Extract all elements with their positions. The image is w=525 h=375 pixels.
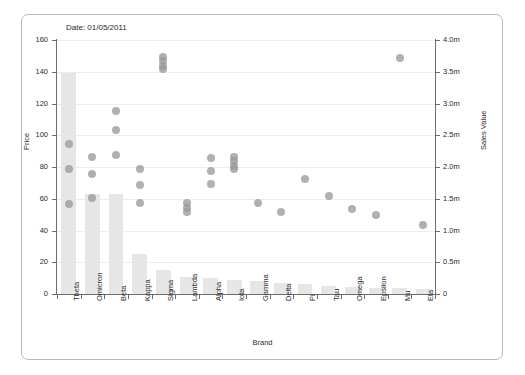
plot-area bbox=[57, 40, 435, 294]
x-tick bbox=[435, 295, 436, 299]
x-tick-label: Omicron bbox=[95, 273, 104, 301]
y-tick-left bbox=[52, 167, 56, 168]
y-tick-label-left: 160 bbox=[4, 36, 48, 44]
scatter-point bbox=[136, 199, 144, 207]
y-tick-right bbox=[436, 231, 440, 232]
scatter-point bbox=[65, 200, 73, 208]
y-axis-left-title: Price bbox=[22, 133, 31, 150]
scatter-point bbox=[65, 165, 73, 173]
x-tick-label: Gamma bbox=[261, 274, 270, 301]
y-tick-left bbox=[52, 104, 56, 105]
x-tick-label: Pi bbox=[308, 294, 317, 301]
y-tick-left bbox=[52, 199, 56, 200]
scatter-point bbox=[396, 54, 404, 62]
bar bbox=[61, 73, 76, 294]
scatter-point bbox=[88, 194, 96, 202]
scatter-point bbox=[88, 170, 96, 178]
x-tick-label: Theta bbox=[72, 282, 81, 301]
scatter-point bbox=[65, 140, 73, 148]
y-tick-right bbox=[436, 104, 440, 105]
gridline bbox=[57, 167, 435, 168]
x-tick-label: Mu bbox=[403, 291, 412, 301]
chart-root: Date: 01/05/2011 020406080100120140160 0… bbox=[0, 0, 525, 375]
scatter-point bbox=[301, 175, 309, 183]
x-axis-title: Brand bbox=[0, 338, 525, 347]
y-axis-left-line bbox=[56, 39, 57, 295]
y-tick-label-right: 0.5m bbox=[443, 258, 487, 266]
scatter-point bbox=[325, 192, 333, 200]
scatter-point bbox=[277, 208, 285, 216]
y-tick-left bbox=[52, 231, 56, 232]
y-tick-label-right: 0 bbox=[443, 290, 487, 298]
x-tick bbox=[364, 295, 365, 299]
scatter-point bbox=[136, 165, 144, 173]
y-tick-right bbox=[436, 135, 440, 136]
gridline bbox=[57, 40, 435, 41]
x-tick-label: Sigma bbox=[166, 280, 175, 301]
y-tick-label-left: 60 bbox=[4, 195, 48, 203]
y-tick-right bbox=[436, 40, 440, 41]
scatter-point bbox=[88, 153, 96, 161]
scatter-point bbox=[159, 65, 167, 73]
scatter-point bbox=[136, 181, 144, 189]
x-tick bbox=[104, 295, 105, 299]
y-tick-right bbox=[436, 72, 440, 73]
scatter-point bbox=[207, 167, 215, 175]
y-tick-label-left: 40 bbox=[4, 227, 48, 235]
bar bbox=[298, 284, 313, 294]
y-axis-right-title: Sales Value bbox=[479, 111, 488, 150]
scatter-point bbox=[254, 199, 262, 207]
y-tick-left bbox=[52, 40, 56, 41]
y-tick-right bbox=[436, 199, 440, 200]
x-tick bbox=[57, 295, 58, 299]
x-tick-label: Omega bbox=[355, 276, 364, 301]
x-tick-label: Alpha bbox=[214, 282, 223, 301]
gridline bbox=[57, 104, 435, 105]
scatter-point bbox=[207, 180, 215, 188]
x-tick-label: Epsilon bbox=[379, 276, 388, 301]
x-tick-label: Beta bbox=[119, 286, 128, 301]
scatter-point bbox=[419, 221, 427, 229]
y-tick-label-left: 20 bbox=[4, 258, 48, 266]
y-tick-left bbox=[52, 294, 56, 295]
y-tick-right bbox=[436, 262, 440, 263]
y-tick-label-right: 3.5m bbox=[443, 68, 487, 76]
date-annotation: Date: 01/05/2011 bbox=[66, 23, 127, 32]
y-tick-left bbox=[52, 72, 56, 73]
x-tick bbox=[175, 295, 176, 299]
y-tick-label-right: 1.5m bbox=[443, 195, 487, 203]
y-tick-right bbox=[436, 167, 440, 168]
scatter-point bbox=[230, 165, 238, 173]
y-tick-label-right: 2.0m bbox=[443, 163, 487, 171]
x-tick-label: Eta bbox=[426, 290, 435, 301]
x-tick bbox=[317, 295, 318, 299]
gridline bbox=[57, 72, 435, 73]
y-tick-label-left: 0 bbox=[4, 290, 48, 298]
scatter-point bbox=[112, 151, 120, 159]
y-tick-label-right: 1.0m bbox=[443, 227, 487, 235]
scatter-point bbox=[112, 126, 120, 134]
scatter-point bbox=[112, 107, 120, 115]
y-tick-label-left: 80 bbox=[4, 163, 48, 171]
scatter-point bbox=[372, 211, 380, 219]
x-tick bbox=[246, 295, 247, 299]
y-tick-left bbox=[52, 135, 56, 136]
scatter-point bbox=[183, 208, 191, 216]
scatter-point bbox=[207, 154, 215, 162]
x-tick-label: Delta bbox=[284, 283, 293, 301]
y-tick-label-left: 140 bbox=[4, 68, 48, 76]
scatter-point bbox=[348, 205, 356, 213]
x-tick bbox=[293, 295, 294, 299]
y-tick-left bbox=[52, 262, 56, 263]
x-tick-label: Lambda bbox=[190, 274, 199, 301]
bar bbox=[109, 194, 124, 294]
y-tick-right bbox=[436, 294, 440, 295]
gridline bbox=[57, 135, 435, 136]
y-tick-label-right: 3.0m bbox=[443, 100, 487, 108]
x-tick-label: Tau bbox=[332, 289, 341, 301]
x-tick-label: Kappa bbox=[143, 279, 152, 301]
y-tick-label-right: 4.0m bbox=[443, 36, 487, 44]
y-tick-label-left: 120 bbox=[4, 100, 48, 108]
x-tick bbox=[128, 295, 129, 299]
x-tick-label: Iota bbox=[237, 288, 246, 301]
